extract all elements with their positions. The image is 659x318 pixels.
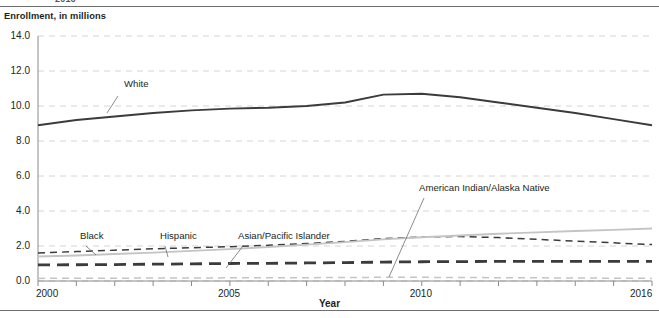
series-label-asian-pacific-islander: Asian/Pacific Islander (238, 230, 330, 241)
y-tick-label: 14.0 (2, 30, 30, 41)
y-tick-label: 0.0 (2, 275, 30, 286)
x-axis-title: Year (0, 298, 659, 309)
series-line-black (38, 237, 652, 253)
y-tick-label: 6.0 (2, 170, 30, 181)
y-tick-label: 2.0 (2, 240, 30, 251)
series-label-black: Black (80, 230, 103, 241)
y-tick-label: 12.0 (2, 65, 30, 76)
series-line-american-indian-alaska-native (38, 277, 652, 278)
chart-page: 2016 Enrollment, in millions 0.02.04.06.… (0, 0, 659, 318)
bottom-divider-rule (0, 310, 659, 311)
series-line-white (38, 94, 652, 126)
line-chart-plot (0, 0, 659, 318)
series-label-white: White (124, 78, 149, 89)
leader-line (107, 96, 118, 113)
series-lines-group (38, 94, 652, 279)
gridlines-group (38, 36, 652, 281)
series-label-hispanic: Hispanic (160, 230, 197, 241)
series-line-hispanic (38, 229, 652, 257)
y-tick-label: 4.0 (2, 205, 30, 216)
x-tick-marks-group (38, 281, 652, 286)
axes-group (38, 36, 652, 281)
series-label-american-indian-alaska-native: American Indian/Alaska Native (419, 182, 550, 193)
y-tick-label: 10.0 (2, 100, 30, 111)
y-tick-label: 8.0 (2, 135, 30, 146)
series-line-asian-pacific-islander (38, 261, 652, 265)
